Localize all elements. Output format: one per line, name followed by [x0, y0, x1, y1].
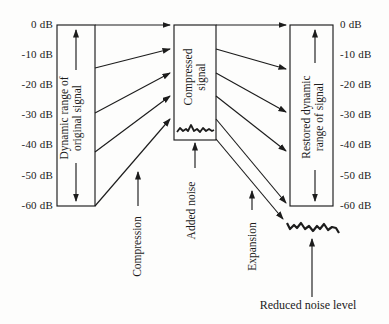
companding-diagram: 0 dB -10 dB -20 dB -30 dB -40 dB -50 dB …: [0, 0, 389, 324]
added-noise-caption: Added noise: [185, 177, 198, 245]
expansion-arrow: [216, 96, 286, 151]
left-axis-label: -20 dB: [0, 77, 53, 91]
compression-caption: Compression: [131, 211, 144, 283]
right-axis-label: -50 dB: [340, 168, 389, 182]
right-axis-label: -10 dB: [340, 47, 389, 61]
reduced-noise-caption: Reduced noise level: [253, 298, 363, 313]
compressed-signal-box-label-line1: Compressed: [182, 31, 195, 123]
left-axis-label: -10 dB: [0, 47, 53, 61]
left-axis-label: -50 dB: [0, 168, 53, 182]
expansion-arrow: [216, 119, 286, 203]
right-axis-label: -60 dB: [340, 198, 389, 212]
left-axis-label: -60 dB: [0, 198, 53, 212]
restored-signal-box-label-line2: range of signal: [313, 63, 326, 171]
right-axis-label: 0 dB: [340, 17, 389, 31]
expansion-arrow: [216, 73, 286, 112]
right-axis-label: -20 dB: [340, 77, 389, 91]
added-noise-wave: [177, 125, 214, 132]
compression-arrows: [95, 25, 170, 206]
compressed-signal-box-label-line2: signal: [195, 31, 208, 123]
noise-expansion-arrow: [216, 139, 283, 219]
left-axis-label: -30 dB: [0, 107, 53, 121]
compressed-signal-box-label: Compressed signal: [182, 31, 208, 123]
left-axis-label: -40 dB: [0, 137, 53, 151]
restored-signal-box-label: Restored dynamic range of signal: [300, 63, 326, 171]
compression-arrow: [95, 96, 170, 152]
compression-arrow: [95, 73, 170, 113]
compression-arrow: [95, 49, 170, 68]
expansion-arrow: [216, 49, 286, 69]
original-signal-box-label-line1: Dynamic range of: [58, 70, 71, 166]
expansion-arrows: [216, 25, 286, 219]
expansion-caption: Expansion: [246, 216, 259, 278]
original-signal-box-label: Dynamic range of original signal: [58, 70, 84, 166]
original-signal-box-label-line2: original signal: [71, 70, 84, 166]
right-axis-label: -40 dB: [340, 137, 389, 151]
reduced-noise-wave: [287, 223, 339, 233]
right-axis-label: -30 dB: [340, 107, 389, 121]
restored-signal-box-label-line1: Restored dynamic: [300, 63, 313, 171]
compression-arrow: [95, 119, 170, 206]
left-axis-label: 0 dB: [0, 17, 53, 31]
